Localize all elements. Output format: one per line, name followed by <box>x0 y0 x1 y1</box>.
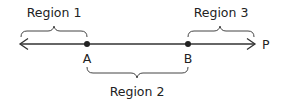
region-1-label: Region 1 <box>27 5 82 20</box>
point-a-label: A <box>83 51 92 66</box>
region-3-brace <box>188 26 254 37</box>
point-b-dot <box>185 41 191 47</box>
end-label-p: P <box>262 37 270 52</box>
region-2-label: Region 2 <box>110 84 165 99</box>
point-b-label: B <box>184 51 193 66</box>
number-line-diagram: A B P Region 1 Region 3 Region 2 <box>0 0 282 104</box>
point-a-dot <box>84 41 90 47</box>
region-1-brace <box>21 26 87 37</box>
region-2-brace <box>87 67 188 78</box>
region-3-label: Region 3 <box>194 5 249 20</box>
